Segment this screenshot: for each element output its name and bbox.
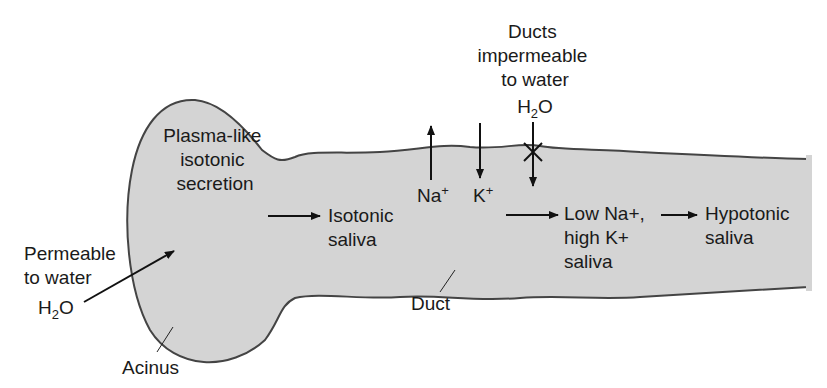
duct-h2o-label: H2O (517, 96, 553, 121)
diagram-canvas: Plasma-like isotonic secretion Permeable… (0, 0, 827, 388)
ducts-impermeable-label: Ducts impermeable to water (477, 21, 592, 90)
salivary-diagram: Plasma-like isotonic secretion Permeable… (0, 0, 827, 388)
acinus-h2o-label: H2O (38, 297, 74, 322)
acinus-label: Acinus (122, 357, 179, 378)
duct-label: Duct (411, 293, 451, 314)
permeable-to-water-label: Permeable to water (24, 243, 121, 288)
